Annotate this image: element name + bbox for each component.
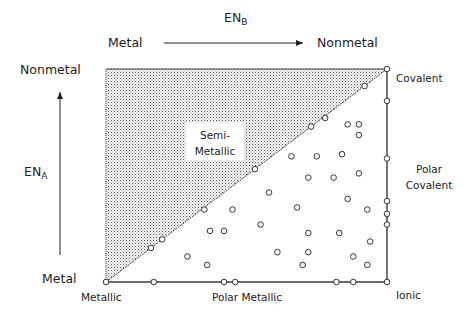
data-point — [159, 237, 165, 243]
data-point — [350, 279, 356, 285]
data-point — [308, 124, 314, 130]
corner-label-metallic: Metallic — [81, 292, 122, 303]
region-label-semi-metallic: Semi- Metallic — [184, 127, 246, 159]
data-point — [204, 262, 210, 268]
data-point — [384, 66, 390, 72]
data-point — [151, 279, 157, 285]
data-point — [230, 207, 236, 213]
edge-label-polar-metallic: Polar Metallic — [212, 292, 282, 303]
data-point — [384, 222, 390, 228]
data-point — [345, 122, 351, 128]
data-point — [306, 249, 312, 255]
data-point — [103, 279, 109, 285]
data-point — [365, 262, 371, 268]
data-point — [252, 166, 258, 172]
data-point — [275, 249, 281, 255]
data-point — [314, 154, 320, 160]
y-axis-title: ENA — [24, 166, 47, 181]
data-point — [331, 175, 337, 181]
data-point — [202, 207, 208, 213]
polar-covalent-line2: Covalent — [396, 177, 462, 193]
data-point — [294, 205, 300, 211]
data-point — [306, 230, 312, 236]
data-point — [258, 222, 264, 228]
semi-metallic-line1: Semi- — [184, 127, 246, 143]
data-point — [384, 98, 390, 104]
data-point — [350, 254, 356, 260]
data-point — [367, 239, 373, 245]
semi-metallic-line2: Metallic — [184, 143, 246, 159]
data-point — [322, 115, 328, 121]
data-point — [148, 245, 154, 251]
data-point — [336, 230, 342, 236]
data-point — [300, 262, 306, 268]
data-point — [339, 151, 345, 157]
data-point — [384, 211, 390, 217]
polar-covalent-line1: Polar — [396, 161, 462, 177]
y-axis-start-label: Metal — [42, 273, 77, 286]
edge-label-polar-covalent: Polar Covalent — [396, 161, 462, 193]
x-axis-title: ENB — [224, 12, 247, 27]
data-point — [266, 190, 272, 196]
data-point — [362, 83, 368, 89]
data-point — [221, 279, 227, 285]
data-point — [232, 279, 238, 285]
corner-label-covalent: Covalent — [396, 73, 443, 84]
data-point — [185, 254, 191, 260]
y-axis-end-label: Nonmetal — [20, 64, 81, 77]
data-point — [334, 279, 340, 285]
data-point — [289, 154, 295, 160]
data-point — [207, 228, 213, 234]
corner-label-ionic: Ionic — [396, 290, 421, 301]
data-point — [384, 198, 390, 204]
data-point — [356, 132, 362, 138]
data-point — [356, 122, 362, 128]
data-point — [384, 156, 390, 162]
data-point — [365, 207, 371, 213]
data-point — [384, 279, 390, 285]
x-axis-start-label: Metal — [108, 37, 143, 50]
data-point — [306, 175, 312, 181]
data-point — [345, 196, 351, 202]
x-axis-end-label: Nonmetal — [317, 37, 378, 50]
data-point — [221, 228, 227, 234]
data-point — [356, 171, 362, 177]
